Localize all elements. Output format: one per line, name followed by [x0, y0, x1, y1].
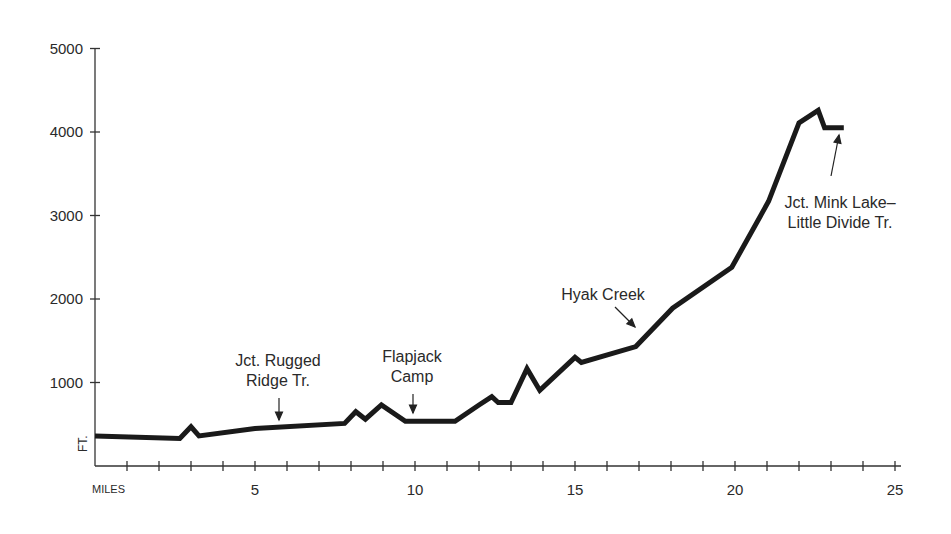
x-axis-title: MILES [92, 483, 125, 495]
axes [90, 49, 901, 472]
annotation-hyak-creek: Hyak Creek [548, 285, 658, 305]
y-tick-label: 3000 [23, 207, 83, 224]
y-tick-label: 5000 [23, 40, 83, 57]
y-tick-label: 2000 [23, 290, 83, 307]
y-tick-label: 4000 [23, 123, 83, 140]
x-tick-label: 15 [555, 481, 595, 498]
y-tick-label: 1000 [23, 374, 83, 391]
annotation-rugged-ridge: Jct. Rugged Ridge Tr. [218, 351, 338, 391]
y-axis-title: FT. [76, 435, 90, 452]
annotation-arrows [276, 135, 841, 420]
x-tick-label: 5 [235, 481, 275, 498]
elevation-line [95, 110, 844, 438]
x-tick-label: 25 [875, 481, 915, 498]
x-tick-label: 20 [715, 481, 755, 498]
x-tick-label: 10 [395, 481, 435, 498]
annotation-mink-lake: Jct. Mink Lake– Little Divide Tr. [770, 193, 910, 233]
elevation-chart [0, 0, 951, 534]
annotation-flapjack-camp: Flapjack Camp [372, 347, 452, 387]
